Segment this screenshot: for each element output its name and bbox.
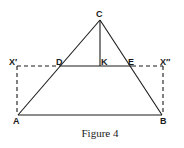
label-K: K — [101, 57, 108, 67]
figure-caption: Figure 4 — [82, 127, 119, 139]
segment-AC — [18, 20, 100, 115]
label-B: B — [160, 116, 167, 126]
label-X-double-prime: X″ — [160, 57, 171, 67]
label-A: A — [13, 116, 20, 126]
label-D: D — [56, 57, 63, 67]
label-C: C — [96, 9, 103, 19]
geometry-figure: C D K E X′ X″ A B Figure 4 — [0, 0, 184, 148]
label-E: E — [128, 57, 134, 67]
label-X-prime: X′ — [9, 57, 17, 67]
segment-BC — [100, 20, 162, 115]
